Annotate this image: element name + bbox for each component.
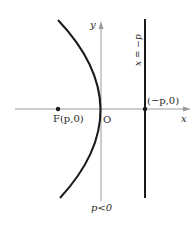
x-axis: [15, 107, 191, 112]
y-axis-label: y: [89, 19, 96, 30]
directrix-equation-label: x = −p: [133, 34, 143, 66]
y-axis-arrow-icon: [99, 21, 104, 29]
directrix-intersection-point: [143, 107, 147, 111]
focus-label: F(p,0): [53, 113, 84, 124]
focus-point: [56, 107, 60, 111]
parabola-diagram: y x O F(p,0) (−p,0) x = −p p<0: [0, 0, 196, 227]
condition-label: p<0: [91, 202, 113, 213]
x-axis-label: x: [181, 113, 187, 124]
x-axis-arrow-icon: [183, 107, 191, 112]
directrix-intersection-label: (−p,0): [147, 95, 179, 106]
origin-label: O: [103, 114, 111, 125]
